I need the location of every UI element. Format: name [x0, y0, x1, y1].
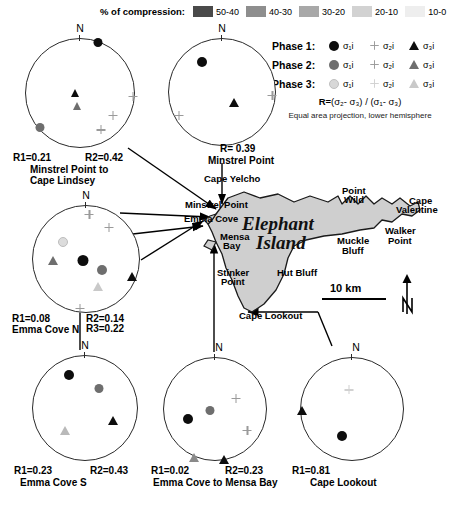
r3-caption: R3=0.22: [86, 323, 124, 334]
stereonet-name-line: Cape Lindsey: [30, 175, 95, 186]
scale-bar-label: 10 km: [330, 282, 361, 294]
stereonet-minstrel-point-to-cape-lindsey: N R1=0.21 R2=0.42 Minstrel Point to Cape…: [25, 38, 135, 148]
stereonet-emma-cove-n: N R1=0.08 R2=0.14 R3=0.22 Emma Cove N: [32, 205, 140, 313]
stereonet-cape-lookout: N R1=0.81 Cape Lookout: [300, 357, 404, 461]
map-label-point-2: Point: [388, 236, 412, 246]
stereonet-emma-cove-to-mensa-bay: N R1=0.02 R2=0.23 Emma Cove to Mensa Bay: [163, 357, 267, 461]
sigma2-symbol: [109, 106, 118, 124]
sigma2-symbol: [85, 205, 94, 223]
north-label: N: [70, 22, 90, 34]
sigma3-symbol: [189, 448, 199, 466]
r1-caption: R1=0.23: [14, 465, 52, 476]
sigma1-symbol: [94, 379, 103, 397]
sigma2-symbol: [243, 421, 252, 439]
r1-caption: R1=0.02: [151, 465, 189, 476]
sigma1-symbol: [337, 427, 347, 445]
stereonet-name-line: Cape Lookout: [310, 477, 377, 488]
sigma1-symbol: [94, 33, 103, 51]
compass-rose: [397, 274, 423, 316]
stereonet-minstrel-point: N R= 0.39 Minstrel Point: [168, 38, 276, 146]
stereonet-name-line: Emma Cove N: [12, 324, 79, 335]
sigma3-symbol: [108, 411, 118, 429]
scale-bar: 10 km: [322, 284, 386, 304]
map-label-cape-yelcho: Cape Yelcho: [204, 174, 260, 184]
r1-caption: R1=0.21: [13, 152, 51, 163]
stereonet-emma-cove-s: N R1=0.23 R2=0.43 Emma Cove S: [32, 355, 138, 461]
r2-caption: R2=0.43: [90, 465, 128, 476]
sigma3-symbol: [93, 277, 103, 295]
map-label-bluff: Bluff: [342, 246, 364, 256]
elephant-island-map: Elephant Island Cape Yelcho Minstrel Poi…: [182, 176, 450, 336]
sigma2-symbol: [268, 86, 277, 104]
sigma3-symbol: [48, 251, 58, 269]
stereonet-name-line: Emma Cove to Mensa Bay: [153, 477, 278, 488]
sigma3-symbol: [297, 401, 307, 419]
map-label-bay: Bay: [223, 241, 240, 251]
stereonet-name-line: Minstrel Point: [208, 155, 274, 166]
r1-caption: R1=0.08: [12, 313, 50, 324]
sigma1-symbol: [77, 252, 88, 270]
sigma2-symbol: [75, 299, 84, 317]
sigma2-symbol: [104, 218, 113, 236]
r1-caption: R1=0.81: [292, 465, 330, 476]
map-label-minstrel-point: Minstrel Point: [185, 200, 248, 210]
r-caption: R= 0.39: [220, 143, 255, 154]
sigma1-symbol: [58, 233, 68, 251]
sigma2-symbol: [96, 120, 105, 138]
north-label: N: [75, 339, 95, 351]
sigma3-symbol: [60, 421, 70, 439]
sigma3-symbol: [127, 267, 137, 285]
island-name-line: Elephant: [242, 214, 314, 233]
map-label-point-wild-2: Wild: [344, 195, 364, 205]
sigma2-symbol: [231, 389, 240, 407]
sigma2-symbol: [128, 87, 137, 105]
sigma2-symbol: [344, 380, 353, 398]
map-label-hut-bluff: Hut Bluff: [277, 268, 317, 278]
sigma1-symbol: [183, 410, 193, 428]
north-label: N: [212, 22, 232, 34]
stereonet-name-line: Minstrel Point to: [30, 164, 108, 175]
map-label-valentine: Valentine: [396, 205, 438, 215]
map-label-point: Point: [221, 277, 245, 287]
sigma3-symbol: [229, 93, 239, 111]
compass-arrow-icon: [397, 274, 423, 316]
stereonet-name-line: Emma Cove S: [20, 477, 87, 488]
north-label: N: [209, 341, 229, 353]
map-label-cape-lookout: Cape Lookout: [239, 311, 302, 321]
sigma1-symbol: [64, 366, 74, 384]
r2-caption: R2=0.42: [85, 152, 123, 163]
sigma1-symbol: [35, 118, 44, 136]
island-name-line: Island: [256, 233, 314, 252]
r2-caption: R2=0.23: [225, 465, 263, 476]
north-label: N: [346, 341, 366, 353]
sigma2-symbol: [174, 106, 183, 124]
map-label-emma-cove: Emma Cove: [184, 214, 238, 224]
sigma3-symbol: [73, 96, 81, 114]
north-label: N: [76, 189, 96, 201]
sigma1-symbol: [197, 53, 207, 71]
sigma1-symbol: [205, 401, 214, 419]
island-name: Elephant Island: [242, 214, 314, 252]
